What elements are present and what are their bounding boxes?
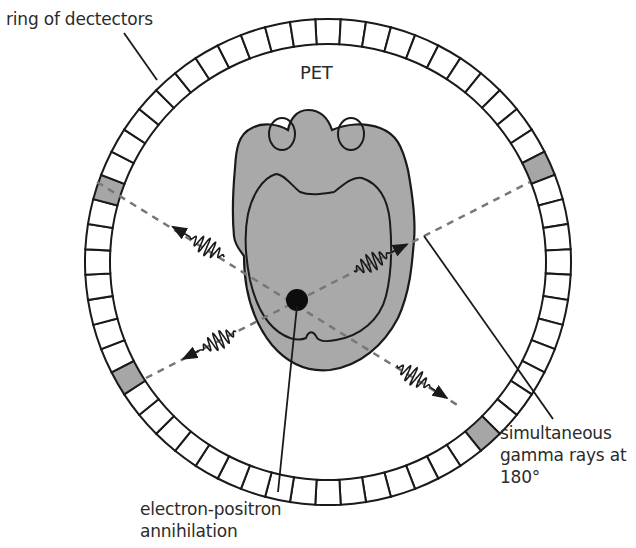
head-outline <box>233 110 415 370</box>
gamma-wave-icon <box>397 365 431 387</box>
detector-cell <box>315 19 340 44</box>
detector-cell <box>546 249 571 274</box>
gamma-label-line-2: gamma rays at <box>500 444 626 466</box>
ring-label: ring of dectectors <box>6 8 153 30</box>
arrow-icon <box>183 350 201 359</box>
arrow-icon <box>430 387 447 398</box>
detector-cell <box>85 249 110 274</box>
detector-cell <box>315 480 340 505</box>
ring-pointer-line <box>124 33 157 80</box>
detector-cell <box>339 477 366 504</box>
detector-cell <box>265 22 294 51</box>
detector-cell <box>362 473 391 502</box>
gamma-wave-icon <box>190 236 224 257</box>
gamma-label-line-3: 180° <box>500 466 626 488</box>
head-cross-section <box>233 110 415 370</box>
annihilation-label: electron-positron annihilation <box>140 498 281 542</box>
detector-cell <box>543 224 570 251</box>
annihilation-label-line-1: electron-positron <box>140 498 281 520</box>
detector-cell <box>539 199 568 228</box>
detector-cell <box>88 296 117 325</box>
diagram-title: PET <box>300 62 333 84</box>
gamma-label: simultaneous gamma rays at 180° <box>500 422 626 488</box>
gamma-pointer-line <box>424 236 553 419</box>
annihilation-label-line-2: annihilation <box>140 520 281 542</box>
gamma-label-line-1: simultaneous <box>500 422 626 444</box>
detector-cell <box>85 273 112 300</box>
detector-cell <box>290 19 317 46</box>
